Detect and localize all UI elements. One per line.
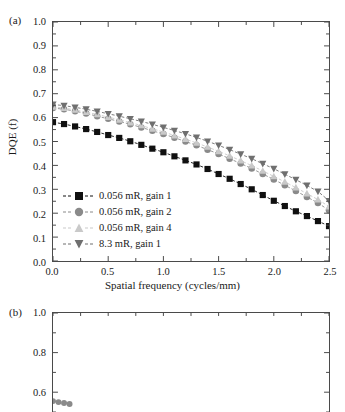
panel-a-ytick-0_3: 0.3 [16,184,46,195]
panel-b-ytick-0_8: 0.8 [16,347,46,358]
panel-a-ytick-0_2: 0.2 [16,208,46,219]
legend-marker-triangle-up [62,221,96,235]
panel-a-ytick-0_1: 0.1 [16,232,46,243]
legend-item: 0.056 mR, gain 4 [62,220,172,235]
legend-marker-circle [62,205,96,219]
panel-a-ytick-0_6: 0.6 [16,112,46,123]
panel-b-ytick-0_6: 0.6 [16,387,46,398]
panel-a-ytick-0_8: 0.8 [16,64,46,75]
panel-a-x-axis-title: Spatial frequency (cycles/mm) [0,279,345,291]
legend-label: 8.3 mR, gain 1 [96,238,161,249]
panel-a-xtick-1_5: 1.5 [212,266,225,277]
legend-item: 8.3 mR, gain 1 [62,236,172,251]
panel-b: (b) 1.0 0.8 0.6 [0,295,345,412]
legend-item: 0.056 mR, gain 2 [62,204,172,219]
legend-marker-square [62,189,96,203]
legend-label: 0.056 mR, gain 4 [96,222,172,233]
panel-a-xtick-2_5: 2.5 [323,266,336,277]
figure-dqe-panels: (a) 1.0 0.9 0.8 0.7 0.6 0.5 0.4 0.3 0.2 … [0,0,345,412]
panel-a-legend: 0.056 mR, gain 1 0.056 mR, gain 2 0.056 … [62,188,172,251]
panel-b-plot-frame [52,312,330,412]
panel-a-ytick-1_0: 1.0 [16,16,46,27]
panel-a-xtick-0_5: 0.5 [101,266,114,277]
legend-label: 0.056 mR, gain 2 [96,206,172,217]
panel-a-ytick-0_9: 0.9 [16,40,46,51]
panel-a-ytick-0_4: 0.4 [16,160,46,171]
panel-a-xtick-2_0: 2.0 [268,266,281,277]
legend-item: 0.056 mR, gain 1 [62,188,172,203]
panel-a-ytick-0_5: 0.5 [16,136,46,147]
panel-b-tick-marks [53,313,329,412]
panel-a: (a) 1.0 0.9 0.8 0.7 0.6 0.5 0.4 0.3 0.2 … [0,0,345,295]
panel-a-y-axis-title: DQE (f) [6,119,18,155]
legend-label: 0.056 mR, gain 1 [96,190,172,201]
panel-b-ytick-1_0: 1.0 [16,307,46,318]
panel-a-xtick-1_0: 1.0 [157,266,170,277]
panel-a-ytick-0_0: 0.0 [16,257,46,268]
panel-a-xtick-0_0: 0.0 [45,266,58,277]
panel-a-ytick-0_7: 0.7 [16,88,46,99]
legend-marker-triangle-down [62,237,96,251]
